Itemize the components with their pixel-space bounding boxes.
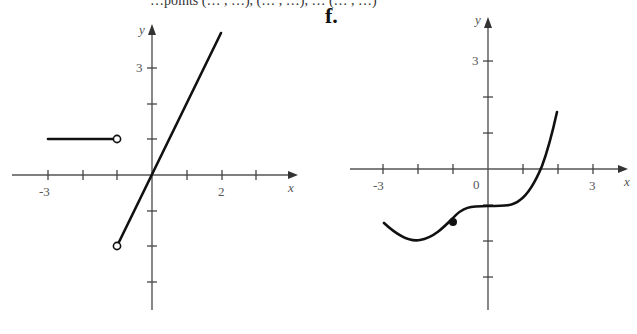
right-x-arrow-icon bbox=[618, 165, 628, 173]
figure-canvas: …points (… , …), (… , …), … (… , …) -3 bbox=[0, 0, 637, 334]
left-y-tick-label-3: 3 bbox=[136, 60, 143, 75]
filled-point-icon bbox=[449, 218, 457, 226]
left-y-arrow-icon bbox=[148, 24, 156, 35]
right-curve bbox=[384, 112, 557, 240]
left-x-tick-label-2: 2 bbox=[218, 184, 225, 199]
left-graph: -3 2 3 x y bbox=[12, 22, 298, 310]
right-x-axis-label: x bbox=[623, 174, 630, 189]
left-x-arrow-icon bbox=[288, 171, 298, 179]
open-endpoint-icon bbox=[113, 135, 120, 142]
right-x-tick-label-neg3: -3 bbox=[373, 178, 384, 193]
right-graph: f. -3 0 3 3 x y bbox=[325, 3, 630, 310]
open-endpoint-icon bbox=[113, 242, 120, 249]
part-label: f. bbox=[325, 3, 338, 28]
right-y-tick-label-3: 3 bbox=[472, 53, 479, 68]
right-x-tick-label-0: 0 bbox=[473, 177, 480, 192]
left-y-axis-label: y bbox=[137, 22, 145, 37]
left-linear-segment bbox=[119, 33, 221, 242]
right-x-tick-label-3: 3 bbox=[589, 178, 596, 193]
left-x-tick-label-neg3: -3 bbox=[39, 184, 50, 199]
right-y-axis-label: y bbox=[473, 12, 481, 27]
left-x-axis-label: x bbox=[287, 180, 294, 195]
clipped-header-text: …points (… , …), (… , …), … (… , …) bbox=[150, 0, 377, 9]
right-y-arrow-icon bbox=[484, 17, 492, 28]
